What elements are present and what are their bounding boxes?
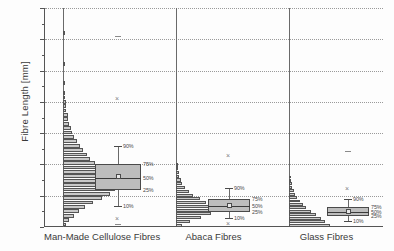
percentile-label: 10% <box>353 218 364 224</box>
whisker-upper <box>118 146 119 164</box>
outlier-marker-x: × <box>345 185 349 192</box>
outlier-marker-dash <box>345 151 351 152</box>
whisker-upper <box>348 199 349 207</box>
mean-marker <box>346 209 351 214</box>
chart-group-2: 90%75%50%25%10%×× <box>158 8 271 227</box>
outlier-marker-dash <box>115 224 121 225</box>
percentile-label: 90% <box>234 185 245 191</box>
percentile-label: 25% <box>143 187 154 193</box>
whisker-cap-upper <box>344 199 352 200</box>
mean-marker <box>227 203 232 208</box>
whisker-cap-lower <box>114 206 122 207</box>
outlier-marker-dash <box>115 36 121 37</box>
percentile-label: 25% <box>252 209 263 215</box>
category-label: Abaca Fibres <box>157 231 270 242</box>
box-plot: 90%75%50%25%10%×× <box>45 8 158 227</box>
box-plot: 90%75%50%25%10%×× <box>158 8 271 227</box>
chart-group-3: 90%75%50%25%10%× <box>271 8 384 227</box>
percentile-label: 75% <box>252 196 263 202</box>
whisker-cap-upper <box>114 146 122 147</box>
whisker-lower <box>118 190 119 206</box>
fibre-length-box-plot-chart: Fibre Length [mm] 0,00,51,01,52,02,53,03… <box>0 0 394 251</box>
mean-marker <box>116 174 121 179</box>
outlier-marker-x: × <box>226 220 230 227</box>
y-axis-tick-mark <box>40 227 44 228</box>
category-label: Glass Fibres <box>270 231 383 242</box>
category-label: Man-Made Cellulose Fibres <box>44 231 157 242</box>
outlier-marker-x: × <box>115 95 119 102</box>
percentile-label: 25% <box>371 213 382 219</box>
percentile-label: 50% <box>143 175 154 181</box>
plot-area: 90%75%50%25%10%××90%75%50%25%10%××90%75%… <box>44 8 383 227</box>
y-axis-title: Fibre Length [mm] <box>19 32 30 172</box>
percentile-label: 10% <box>234 215 245 221</box>
percentile-label: 10% <box>123 203 134 209</box>
whisker-upper <box>229 188 230 199</box>
outlier-marker-x: × <box>115 215 119 222</box>
chart-group-1: 90%75%50%25%10%×× <box>45 8 158 227</box>
box-plot: 90%75%50%25%10%× <box>271 8 384 227</box>
whisker-cap-upper <box>225 188 233 189</box>
percentile-label: 90% <box>123 143 134 149</box>
whisker-cap-lower <box>344 221 352 222</box>
percentile-label: 90% <box>353 196 364 202</box>
whisker-cap-lower <box>225 218 233 219</box>
percentile-label: 75% <box>143 161 154 167</box>
outlier-marker-x: × <box>226 152 230 159</box>
